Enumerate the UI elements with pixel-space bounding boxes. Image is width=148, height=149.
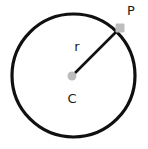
point-p-marker [116, 24, 125, 33]
center-point-marker [68, 72, 77, 81]
center-label: C [67, 91, 76, 106]
radius-label: r [74, 39, 80, 54]
circle-diagram-canvas: r C P [0, 0, 148, 149]
circle-diagram-figure: r C P [0, 0, 148, 149]
point-p-label: P [127, 3, 135, 18]
